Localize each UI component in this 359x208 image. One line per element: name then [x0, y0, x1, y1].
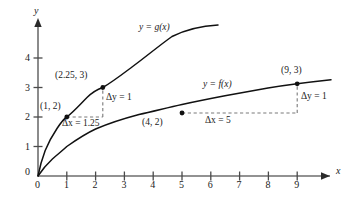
x-axis-arrow [321, 172, 330, 180]
y-tick-label-2: 2 [25, 112, 30, 122]
curve-label-f: y = f(x) [203, 80, 232, 90]
function-comparison-figure: 0 1 2 3 4 5 6 7 8 9 1 2 3 4 0 y x y = g(… [0, 0, 359, 208]
point-marker-g-225-3 [100, 85, 105, 90]
x-tick-label-6: 6 [208, 180, 213, 190]
x-tick-label-4: 4 [150, 180, 155, 190]
delta-lines-f [182, 84, 297, 113]
x-tick-label-0: 0 [35, 180, 40, 190]
point-label-g-1-2: (1, 2) [40, 102, 61, 112]
annotation-g-delta-x: Δx = 1.25 [62, 119, 100, 129]
y-tick-label-3: 3 [25, 83, 30, 93]
x-tick-label-3: 3 [121, 180, 126, 190]
y-axis [34, 18, 41, 176]
x-tick-label-7: 7 [237, 180, 242, 190]
x-tick-label-5: 5 [179, 180, 184, 190]
point-marker-f-4-2 [180, 111, 185, 116]
y-tick-label-4: 4 [25, 53, 30, 63]
annotation-g-delta-y: Δy = 1 [106, 93, 132, 103]
point-marker-f-9-3 [295, 81, 300, 86]
y-axis-arrow [34, 18, 41, 27]
point-label-f-4-2: (4, 2) [142, 118, 163, 128]
x-axis [38, 172, 330, 180]
x-tick-label-2: 2 [93, 180, 98, 190]
point-label-g-225-3: (2.25, 3) [55, 71, 87, 81]
x-tick-label-8: 8 [265, 180, 270, 190]
y-origin-label: 0 [25, 167, 30, 177]
curve-label-g: y = g(x) [139, 23, 170, 33]
annotation-f-delta-y: Δy = 1 [301, 92, 327, 102]
x-tick-label-9: 9 [294, 180, 299, 190]
x-axis-label: x [336, 166, 340, 176]
annotation-f-delta-x: Δx = 5 [205, 116, 231, 126]
y-tick-label-1: 1 [25, 142, 30, 152]
y-axis-label: y [34, 6, 38, 16]
point-label-f-9-3: (9, 3) [281, 66, 302, 76]
x-tick-label-1: 1 [64, 180, 69, 190]
